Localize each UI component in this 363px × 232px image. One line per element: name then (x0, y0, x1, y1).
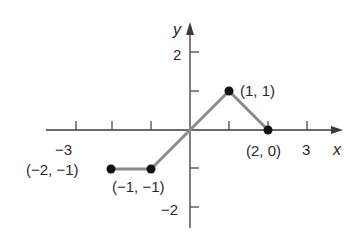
point-1-1 (225, 87, 234, 96)
point-label: (−1, −1) (112, 178, 165, 195)
y-tick-label: 2 (173, 46, 181, 63)
x-axis-arrow-icon (331, 126, 343, 134)
point-label: (−2, −1) (26, 161, 79, 178)
y-axis-label: y (172, 21, 182, 38)
x-tick-label: −3 (55, 141, 72, 158)
x-axis-label: x (332, 141, 342, 158)
piecewise-graph: −3 3 x 2 −2 y (−2, −1) (−1, −1) (1, 1) (… (0, 0, 363, 232)
y-tick-label: −2 (161, 201, 178, 218)
point-2-0 (264, 126, 273, 135)
point-neg2-neg1 (107, 165, 116, 174)
point-label: (1, 1) (240, 82, 275, 99)
y-axis: 2 −2 y (161, 21, 199, 228)
point-label: (2, 0) (246, 142, 281, 159)
y-axis-arrow-icon (186, 22, 194, 35)
point-neg1-neg1 (147, 165, 156, 174)
x-tick-label: 3 (302, 141, 310, 158)
